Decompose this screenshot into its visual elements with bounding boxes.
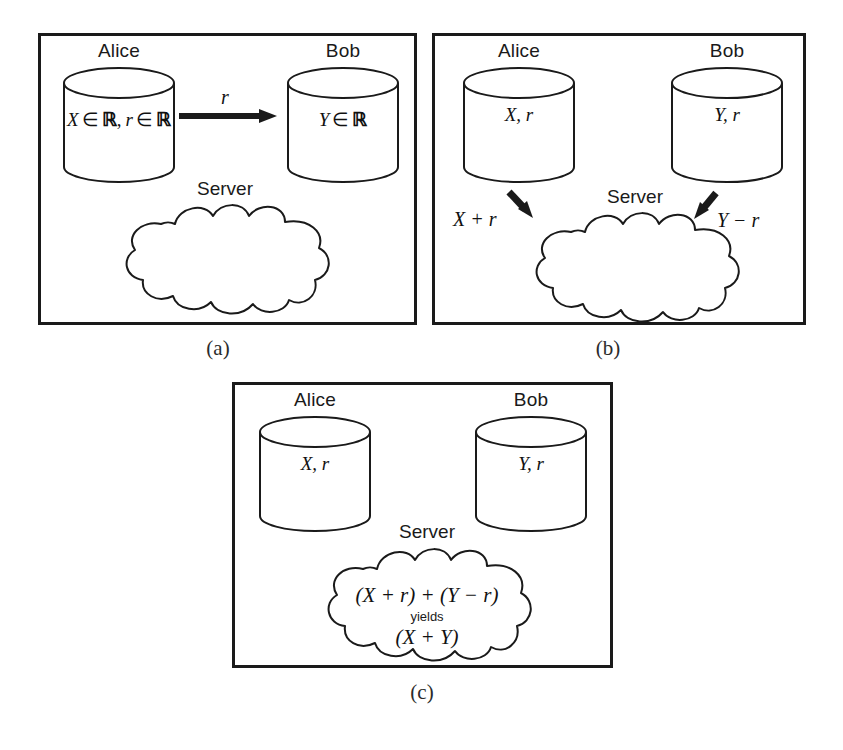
panel-a: Alice X∈ℝ,r∈ℝ r Bob (38, 33, 417, 325)
arrow-label-r: r (221, 86, 229, 109)
alice-a-in1: ∈ (82, 109, 99, 130)
party-label-alice: Alice (61, 40, 177, 62)
figure-root: Alice X∈ℝ,r∈ℝ r Bob (0, 0, 843, 750)
arrow-b-left-text: X + r (453, 208, 497, 230)
panel-b: Alice X, r Bob Y, r (432, 33, 806, 325)
party-label-bob: Bob (285, 40, 401, 62)
party-alice-b: Alice X, r (461, 40, 577, 190)
party-bob-a: Bob Y∈ℝ (285, 40, 401, 190)
arrow-alice-to-bob (179, 108, 289, 132)
party-alice-a: Alice X∈ℝ,r∈ℝ (61, 40, 177, 190)
alice-a-in2: ∈ (136, 109, 153, 130)
server-label-c: Server (315, 521, 539, 543)
alice-a-var2: r (125, 109, 132, 130)
caption-c: (c) (392, 680, 452, 705)
bob-a-var1: Y (319, 109, 330, 130)
bob-a-in1: ∈ (332, 109, 349, 130)
alice-a-set1: ℝ (102, 109, 117, 130)
cylinder-contents-bob-b: Y, r (669, 104, 785, 126)
party-label-alice-c: Alice (257, 389, 373, 411)
arrow-label-x-plus-r: X + r (453, 208, 497, 231)
cylinder-contents-alice-c: X, r (257, 453, 373, 475)
party-bob-b: Bob Y, r (669, 40, 785, 190)
server-formula-line3: (X + Y) (315, 625, 539, 650)
alice-a-comma: , (117, 109, 122, 130)
cylinder-contents-bob-c: Y, r (473, 453, 589, 475)
party-alice-c: Alice X, r (257, 389, 373, 539)
cylinder-contents-alice-a: X∈ℝ,r∈ℝ (61, 108, 177, 131)
caption-a: (a) (188, 336, 248, 361)
panel-c: Alice X, r Bob Y, r Server (232, 382, 613, 668)
party-label-bob-c: Bob (473, 389, 589, 411)
party-bob-c: Bob Y, r (473, 389, 589, 539)
server-label-b: Server (523, 186, 747, 208)
cloud-shape-a (113, 200, 337, 318)
server-formula-yields: yields (315, 609, 539, 624)
party-label-bob-b: Bob (669, 40, 785, 62)
caption-b: (b) (578, 336, 638, 361)
cylinder-contents-alice-b: X, r (461, 104, 577, 126)
server-label-a: Server (113, 178, 337, 200)
server-formula-line1: (X + r) + (Y − r) (315, 583, 539, 608)
cylinder-contents-bob-a: Y∈ℝ (285, 108, 401, 131)
server-group-b: Server (523, 186, 747, 326)
party-label-alice-b: Alice (461, 40, 577, 62)
alice-a-set2: ℝ (156, 109, 171, 130)
cloud-shape-b (523, 208, 747, 326)
server-group-a: Server (113, 178, 337, 318)
bob-a-set1: ℝ (352, 109, 367, 130)
server-group-c: Server (X + r) + (Y − r) yields (X + Y) (315, 521, 539, 666)
alice-a-var1: X (67, 109, 79, 130)
